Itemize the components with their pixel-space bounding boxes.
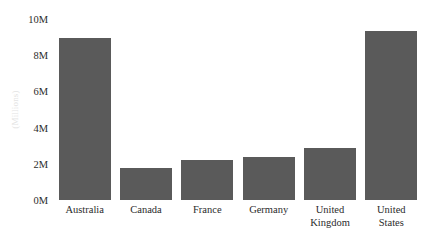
bar-chart-figure: (Millions) 0M2M4M6M8M10M AustraliaCanada… [0,0,427,250]
bar [243,157,295,200]
y-axis-tick-label: 2M [22,158,48,169]
bar [59,38,111,200]
bar-slot [59,19,111,200]
bar-slot [120,19,172,200]
x-axis-tick-label: Australia [54,203,115,216]
x-axis-tick-label: UnitedStates [361,203,422,229]
x-axis-tick-label-line: United [299,203,360,216]
bar [120,168,172,200]
y-axis-tick-label: 8M [22,50,48,61]
x-axis-tick-label: Germany [238,203,299,216]
y-axis-tick-label: 0M [22,195,48,206]
bar [304,148,356,200]
y-axis-tick-labels: 0M2M4M6M8M10M [22,0,48,250]
x-axis-tick-label: UnitedKingdom [299,203,360,229]
bar-slot [181,19,233,200]
y-axis-tick-label: 10M [22,14,48,25]
x-axis-tick-label-line: France [177,203,238,216]
x-axis-tick-label-line: Australia [54,203,115,216]
bar [181,160,233,200]
x-axis-tick-label: Canada [115,203,176,216]
x-axis-tick-label-line: Canada [115,203,176,216]
bar [365,31,417,200]
x-axis-tick-labels: AustraliaCanadaFranceGermanyUnitedKingdo… [54,203,422,250]
y-axis-tick-label: 4M [22,122,48,133]
x-axis-tick-label-line: States [361,216,422,229]
bar-slot [243,19,295,200]
x-axis-tick-label-line: United [361,203,422,216]
y-axis-tick-label: 6M [22,86,48,97]
x-axis-tick-label-line: Kingdom [299,216,360,229]
x-axis-tick-label: France [177,203,238,216]
y-axis-title: (Millions) [8,19,22,200]
bar-slot [365,19,417,200]
plot-area [54,19,422,200]
x-axis-tick-label-line: Germany [238,203,299,216]
bar-slot [304,19,356,200]
